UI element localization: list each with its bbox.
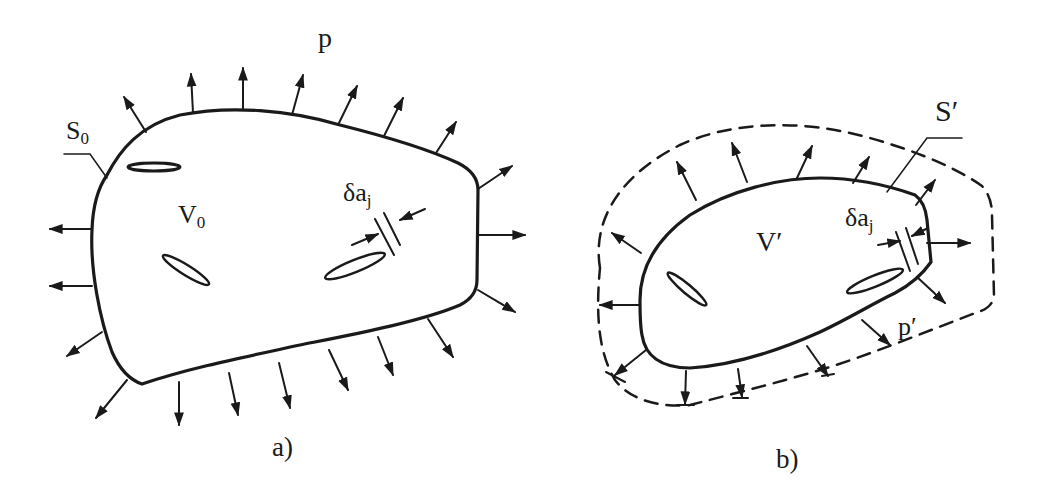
volume-label-v0-main: V xyxy=(178,200,197,229)
crack-growth-label-b-sub: j xyxy=(869,216,874,235)
pressure-label-p-prime: p′ xyxy=(898,314,917,340)
surface-label-s0: S0 xyxy=(66,118,89,147)
crack-growth-label-b: δaj xyxy=(845,205,874,234)
s0-leader xyxy=(64,154,107,178)
crack-3 xyxy=(323,248,387,283)
volume-label-v0: V0 xyxy=(178,202,205,231)
volume-label-v-prime: V′ xyxy=(756,228,782,256)
surface-label-s0-main: S xyxy=(66,116,80,145)
diagram-drawing xyxy=(0,0,1044,497)
crack-2 xyxy=(160,251,211,288)
panel-a xyxy=(50,68,525,425)
crack-growth-label-a-main: δa xyxy=(343,178,367,207)
figure-canvas: p S0 V0 δaj a) S′ V′ δaj p′ b) xyxy=(0,0,1044,497)
pressure-arrows-a xyxy=(50,68,525,425)
body-boundary-s-prime xyxy=(640,178,931,368)
crack-1 xyxy=(128,163,180,171)
crack-extension-marks-a xyxy=(352,209,425,255)
panel-b xyxy=(598,125,994,405)
surface-label-s-prime: S′ xyxy=(935,96,958,126)
crack-extension-marks-b xyxy=(878,228,928,271)
crack-growth-label-b-main: δa xyxy=(845,203,869,232)
caption-b: b) xyxy=(776,446,799,473)
crack-4 xyxy=(665,269,709,308)
outer-dashed-boundary xyxy=(598,125,994,405)
body-boundary-s0 xyxy=(92,110,478,384)
surface-label-s0-sub: 0 xyxy=(80,129,89,148)
caption-a: a) xyxy=(272,434,293,461)
pressure-label-p: p xyxy=(318,24,332,52)
crack-growth-label-a: δaj xyxy=(343,180,372,209)
crack-growth-label-a-sub: j xyxy=(367,191,372,210)
volume-label-v0-sub: 0 xyxy=(197,213,206,232)
